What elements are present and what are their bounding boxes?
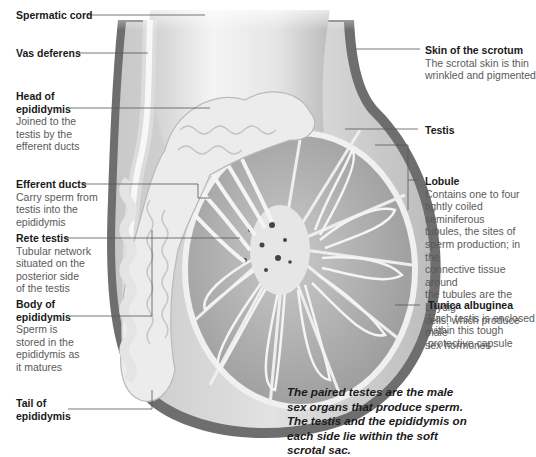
label-efferent-ducts: Efferent ducts Carry sperm from testis i… [16,178,98,228]
label-tail-of-epididymis: Tail of epididymis [16,397,71,422]
testis-shape [182,130,418,410]
label-rete-testis: Rete testis Tubular network situated on … [16,232,91,295]
caption-line: The paired testes are the male [287,385,536,400]
caption: The paired testes are the male sex organ… [287,385,536,457]
label-body-of-epididymis: Body of epididymis Sperm is stored in th… [16,298,80,374]
caption-line: The testis and the epididymis on [287,414,536,429]
caption-line: scrotal sac. [287,443,536,457]
label-head-of-epididymis: Head of epididymis Joined to the testis … [16,90,79,153]
caption-line: each side lie within the soft [287,429,536,444]
label-skin-of-scrotum: Skin of the scrotum The scrotal skin is … [425,44,536,82]
label-vas-deferens: Vas deferens [16,47,81,60]
label-spermatic-cord: Spermatic cord [16,9,92,22]
caption-line: sex organs that produce sperm. [287,400,536,415]
label-tunica-albuginea: Tunica albuginea Each testis is enclosed… [428,299,535,349]
label-testis: Testis [425,124,455,137]
